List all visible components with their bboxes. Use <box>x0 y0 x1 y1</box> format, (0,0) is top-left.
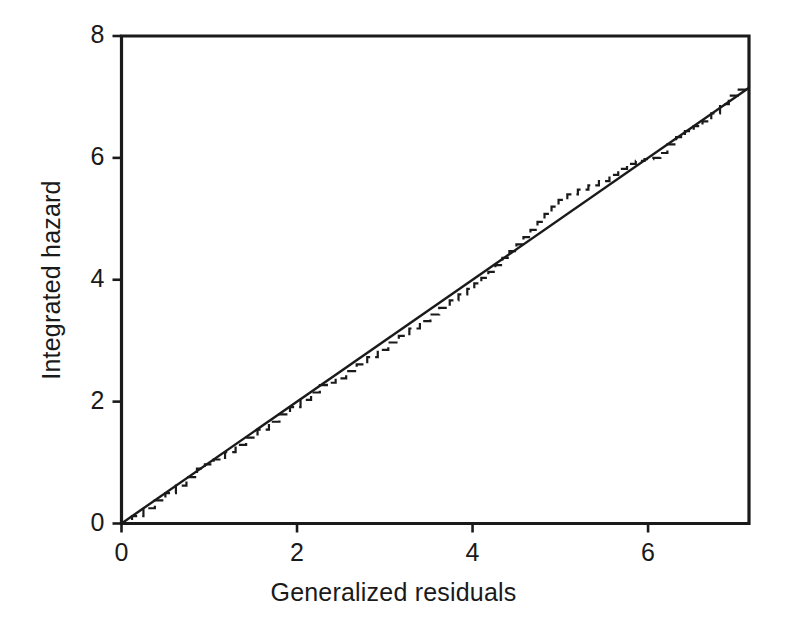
y-tick-label-4: 8 <box>65 20 105 49</box>
y-axis-title: Integrated hazard <box>34 36 68 524</box>
x-tick-label-0: 0 <box>102 538 142 567</box>
y-tick-label-0: 0 <box>65 508 105 537</box>
x-tick-label-3: 6 <box>628 538 668 567</box>
series-line-0 <box>122 88 750 524</box>
y-tick-label-2: 4 <box>65 264 105 293</box>
data-series-group <box>122 86 750 524</box>
plot-frame <box>122 36 750 524</box>
axes-box <box>122 36 750 524</box>
y-tick-label-1: 2 <box>65 386 105 415</box>
x-axis-title: Generalized residuals <box>0 578 787 607</box>
x-tick-label-1: 2 <box>277 538 317 567</box>
chart-figure: Generalized residuals Integrated hazard … <box>0 0 787 634</box>
x-tick-label-2: 4 <box>453 538 493 567</box>
axis-ticks <box>113 36 649 533</box>
y-tick-label-3: 6 <box>65 142 105 171</box>
